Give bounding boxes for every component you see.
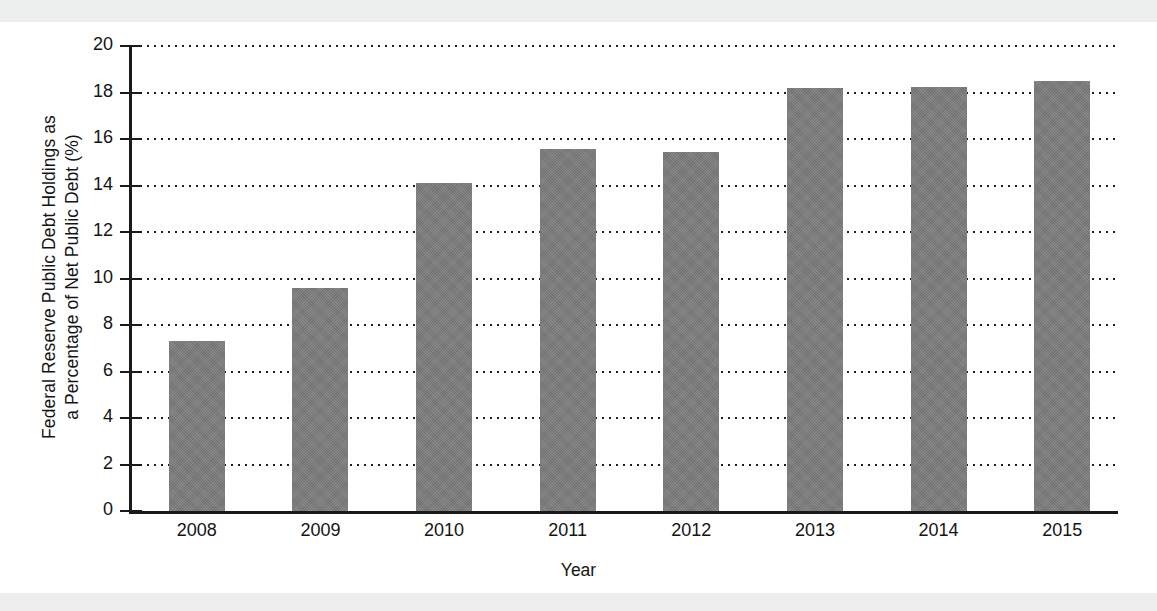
bar-2014 bbox=[911, 87, 967, 511]
y-axis-tick-label: 8 bbox=[57, 313, 113, 334]
y-axis-tick-label: 10 bbox=[57, 267, 113, 288]
y-axis-tick bbox=[120, 92, 142, 94]
y-axis-tick-label: 0 bbox=[57, 499, 113, 520]
y-axis-tick bbox=[120, 510, 142, 512]
y-axis-tick bbox=[120, 278, 142, 280]
gridline bbox=[147, 231, 1118, 233]
y-axis-tick bbox=[120, 185, 142, 187]
x-axis-spine bbox=[129, 511, 1118, 514]
x-axis-tick-label-2013: 2013 bbox=[755, 520, 875, 541]
x-axis-tick-label-2011: 2011 bbox=[508, 520, 628, 541]
y-axis-tick bbox=[120, 231, 142, 233]
gridline bbox=[147, 92, 1118, 94]
y-axis-tick bbox=[120, 324, 142, 326]
bar-2009 bbox=[292, 288, 348, 511]
x-axis-tick-label-2008: 2008 bbox=[137, 520, 257, 541]
x-axis-tick-label-2012: 2012 bbox=[631, 520, 751, 541]
gridline bbox=[147, 45, 1118, 47]
plot-area: 02468101214161820 2008200920102011201220… bbox=[129, 46, 1118, 511]
scan-artifact-band-top bbox=[0, 0, 1157, 22]
y-axis-tick-label: 2 bbox=[57, 453, 113, 474]
y-axis-tick bbox=[120, 45, 142, 47]
x-axis-tick-label-2014: 2014 bbox=[879, 520, 999, 541]
x-axis-title: Year bbox=[0, 560, 1157, 581]
x-axis-tick-label-2010: 2010 bbox=[384, 520, 504, 541]
gridline bbox=[147, 278, 1118, 280]
x-axis-tick-label-2015: 2015 bbox=[1002, 520, 1122, 541]
bar-2010 bbox=[416, 183, 472, 511]
y-axis-tick bbox=[120, 371, 142, 373]
x-axis-tick-label-2009: 2009 bbox=[260, 520, 380, 541]
bar-2008 bbox=[169, 341, 225, 511]
y-axis-tick bbox=[120, 464, 142, 466]
y-axis-tick-label: 6 bbox=[57, 360, 113, 381]
bar-2015 bbox=[1034, 81, 1090, 511]
gridline bbox=[147, 138, 1118, 140]
y-axis-tick-label: 16 bbox=[57, 127, 113, 148]
gridline bbox=[147, 185, 1118, 187]
bar-2012 bbox=[663, 152, 719, 511]
y-axis-tick-label: 12 bbox=[57, 220, 113, 241]
y-axis-tick bbox=[120, 138, 142, 140]
bar-chart-figure: Federal Reserve Public Debt Holdings as … bbox=[0, 22, 1157, 593]
bar-2013 bbox=[787, 88, 843, 511]
y-axis-tick-label: 18 bbox=[57, 81, 113, 102]
bar-2011 bbox=[540, 149, 596, 511]
y-axis-tick-label: 20 bbox=[57, 34, 113, 55]
scan-artifact-band-bottom bbox=[0, 593, 1157, 611]
y-axis-tick-label: 14 bbox=[57, 174, 113, 195]
y-axis-tick bbox=[120, 417, 142, 419]
y-axis-tick-label: 4 bbox=[57, 406, 113, 427]
